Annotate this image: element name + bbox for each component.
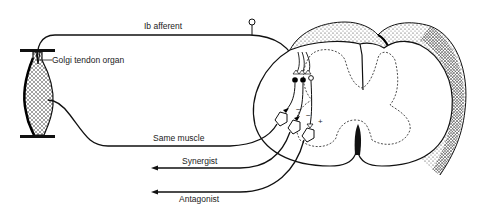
label-ib-afferent: Ib afferent — [144, 22, 182, 31]
sign-antagonist: + — [318, 117, 323, 126]
sign-synergist: − — [306, 111, 311, 120]
sign-same-muscle: − — [296, 105, 301, 114]
dorsal-root-ganglion-cell — [249, 19, 255, 35]
inhibitory-interneuron-2 — [300, 77, 306, 83]
antagonist-arrowhead — [151, 190, 158, 195]
synergist-arrowhead — [151, 166, 158, 171]
label-synergist: Synergist — [182, 157, 217, 166]
spinal-cord — [253, 22, 466, 175]
inhibitory-interneuron-1 — [292, 77, 298, 83]
diagram-canvas: − − + — [0, 0, 477, 214]
label-same-muscle: Same muscle — [153, 134, 205, 143]
label-golgi-tendon-organ: Golgi tendon organ — [52, 56, 124, 65]
excitatory-interneuron — [309, 76, 314, 81]
ib-reflex-diagram: − − + Ib afferent Golgi tendon organ Sam… — [0, 0, 477, 214]
label-antagonist: Antagonist — [179, 195, 219, 204]
